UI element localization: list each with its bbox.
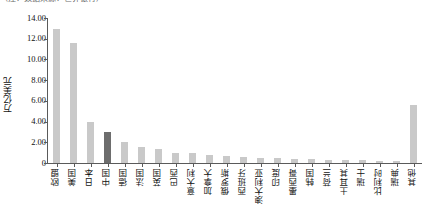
x-axis-tick-label: 意大利 xyxy=(188,168,198,195)
x-axis-tick-label: 日本 xyxy=(86,168,96,186)
x-axis-tick-mark xyxy=(295,164,296,167)
x-axis-tick-mark xyxy=(210,164,211,167)
bar-group[interactable] xyxy=(308,18,316,163)
bar-group[interactable] xyxy=(393,18,401,163)
y-axis-tick-label: 0 xyxy=(16,159,46,168)
bar-group[interactable] xyxy=(121,18,129,163)
y-axis-tick-label: 2.00 xyxy=(16,138,46,147)
x-axis-tick-label: 巴西 xyxy=(171,168,181,186)
bar-group[interactable] xyxy=(104,18,112,163)
bar-group[interactable] xyxy=(138,18,146,163)
x-axis-tick-label: 俄罗斯 xyxy=(222,168,232,195)
bar[interactable] xyxy=(342,160,350,163)
x-axis-tick-mark xyxy=(346,164,347,167)
bar-group[interactable] xyxy=(359,18,367,163)
x-axis-tick-mark xyxy=(74,164,75,167)
x-axis-tick-mark xyxy=(57,164,58,167)
bar-group[interactable] xyxy=(87,18,95,163)
bar-group[interactable] xyxy=(410,18,418,163)
bar[interactable] xyxy=(155,149,163,163)
bar[interactable] xyxy=(291,159,299,163)
x-axis-tick-mark xyxy=(397,164,398,167)
x-axis-tick-label: 法国 xyxy=(137,168,147,186)
bar-group[interactable] xyxy=(274,18,282,163)
bar[interactable] xyxy=(87,122,95,163)
bar[interactable] xyxy=(138,147,146,163)
bar[interactable] xyxy=(121,142,129,163)
x-axis-tick-label: 英国 xyxy=(154,168,164,186)
bar-group[interactable] xyxy=(155,18,163,163)
x-axis-tick-labels: 欧盟美国日本中国德国法国英国巴西意大利加拿大俄罗斯西班牙澳大利亚印度墨西哥韩国荷… xyxy=(0,168,426,219)
bar-group[interactable] xyxy=(257,18,265,163)
x-axis-tick-mark xyxy=(193,164,194,167)
x-axis-tick-label: 瑞士 xyxy=(358,168,368,186)
bar[interactable] xyxy=(308,159,316,163)
bar[interactable] xyxy=(359,160,367,163)
bar-group[interactable] xyxy=(240,18,248,163)
bar[interactable] xyxy=(410,105,418,163)
y-axis-tick-label: 14.00 xyxy=(16,14,46,23)
x-axis-tick-label: 其他 xyxy=(409,168,419,186)
bar-group[interactable] xyxy=(70,18,78,163)
x-axis-tick-label: 土耳其 xyxy=(341,168,351,195)
y-axis-tick-label: 6.00 xyxy=(16,96,46,105)
x-axis-tick-label: 美国 xyxy=(69,168,79,186)
bar-group[interactable] xyxy=(206,18,214,163)
bar[interactable] xyxy=(257,158,265,163)
x-axis-tick-mark xyxy=(176,164,177,167)
bar[interactable] xyxy=(274,158,282,163)
bar-group[interactable] xyxy=(291,18,299,163)
x-axis-tick-mark xyxy=(227,164,228,167)
bar[interactable] xyxy=(189,153,197,163)
x-axis-tick-mark xyxy=(380,164,381,167)
bar-group[interactable] xyxy=(223,18,231,163)
x-axis-tick-mark xyxy=(159,164,160,167)
bar[interactable] xyxy=(206,155,214,163)
bar[interactable] xyxy=(325,160,333,163)
y-axis-tick-label: 10.00 xyxy=(16,55,46,64)
x-axis-tick-label: 印度 xyxy=(273,168,283,186)
x-axis-tick-label: 中国 xyxy=(103,168,113,186)
x-axis-tick-label: 比利时 xyxy=(375,168,385,195)
bar[interactable] xyxy=(172,153,180,163)
x-axis-tick-label: 荷兰 xyxy=(324,168,334,186)
x-axis-tick-mark xyxy=(142,164,143,167)
x-axis-tick-mark xyxy=(244,164,245,167)
bar[interactable] xyxy=(393,161,401,163)
x-axis-tick-label: 韩国 xyxy=(307,168,317,186)
bar-group[interactable] xyxy=(342,18,350,163)
x-axis-tick-mark xyxy=(261,164,262,167)
bar[interactable] xyxy=(240,157,248,163)
y-axis-tick-label: 8.00 xyxy=(16,76,46,85)
x-axis-tick-mark xyxy=(125,164,126,167)
x-axis-tick-label: 西班牙 xyxy=(239,168,249,195)
y-axis-tick-label: 12.00 xyxy=(16,34,46,43)
x-axis-tick-mark xyxy=(278,164,279,167)
x-axis-tick-label: 瑞典 xyxy=(392,168,402,186)
x-axis-tick-mark xyxy=(91,164,92,167)
plot-area xyxy=(48,18,422,163)
x-axis-tick-label: 欧盟 xyxy=(52,168,62,186)
bar-group[interactable] xyxy=(376,18,384,163)
bar[interactable] xyxy=(70,43,78,163)
x-axis-line xyxy=(47,163,422,164)
bar[interactable] xyxy=(104,132,112,163)
x-axis-tick-mark xyxy=(363,164,364,167)
x-axis-tick-label: 墨西哥 xyxy=(290,168,300,195)
x-axis-tick-label: 德国 xyxy=(120,168,130,186)
y-axis-title: 万亿美元 xyxy=(2,60,16,130)
bar-group[interactable] xyxy=(189,18,197,163)
bar-group[interactable] xyxy=(325,18,333,163)
x-axis-tick-mark xyxy=(108,164,109,167)
bar[interactable] xyxy=(53,29,61,163)
x-axis-tick-label: 加拿大 xyxy=(205,168,215,195)
bar-group[interactable] xyxy=(53,18,61,163)
x-axis-tick-mark xyxy=(414,164,415,167)
x-axis-tick-mark xyxy=(312,164,313,167)
y-axis-tick-label: 4.00 xyxy=(16,117,46,126)
x-axis-tick-mark xyxy=(329,164,330,167)
bar[interactable] xyxy=(223,156,231,163)
bar-group[interactable] xyxy=(172,18,180,163)
bar[interactable] xyxy=(376,161,384,163)
bar-chart-figure: （注：数据来源：世界银行） 万亿美元 02.004.006.008.0010.0… xyxy=(0,0,426,219)
